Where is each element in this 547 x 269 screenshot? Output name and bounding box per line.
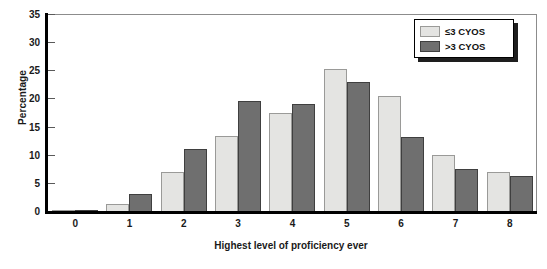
x-tick-label: 6 xyxy=(374,218,428,229)
bar-group xyxy=(211,14,265,211)
x-tick-label: 4 xyxy=(265,218,319,229)
bar xyxy=(324,69,347,211)
x-tick-label: 2 xyxy=(157,218,211,229)
bar xyxy=(129,194,152,211)
legend-swatch-dark xyxy=(420,41,440,52)
legend-box: ≤3 CYOS >3 CYOS xyxy=(414,19,514,58)
bar xyxy=(184,149,207,211)
x-axis-title: Highest level of proficiency ever xyxy=(45,240,537,251)
x-tick-label: 3 xyxy=(211,218,265,229)
bar xyxy=(487,172,510,211)
bar xyxy=(161,172,184,211)
y-tick-label: 20 xyxy=(0,93,40,104)
bar xyxy=(238,101,261,211)
legend-label-0: ≤3 CYOS xyxy=(445,26,485,37)
y-tick-label: 30 xyxy=(0,37,40,48)
y-tick-label: 35 xyxy=(0,9,40,20)
legend-swatch-light xyxy=(420,26,440,37)
x-tick-label: 7 xyxy=(428,218,482,229)
x-tick-label: 5 xyxy=(320,218,374,229)
legend-label-1: >3 CYOS xyxy=(445,41,485,52)
y-tick-label: 5 xyxy=(0,177,40,188)
bar xyxy=(52,210,75,211)
y-tick-label: 25 xyxy=(0,65,40,76)
y-tick-label: 10 xyxy=(0,149,40,160)
x-tick-label: 0 xyxy=(48,218,102,229)
legend: ≤3 CYOS >3 CYOS xyxy=(414,19,514,58)
bar-group xyxy=(265,14,319,211)
bar xyxy=(378,96,401,211)
bar-chart-figure: Percentage 05101520253035 012345678 High… xyxy=(0,0,547,269)
bar xyxy=(75,210,98,211)
legend-item-1: >3 CYOS xyxy=(420,39,508,53)
bar xyxy=(510,176,533,211)
bar xyxy=(269,113,292,211)
bar xyxy=(455,169,478,211)
x-tick-label: 1 xyxy=(102,218,156,229)
bar xyxy=(432,155,455,211)
bar xyxy=(215,136,238,211)
y-tick-label: 15 xyxy=(0,121,40,132)
bar-group xyxy=(102,14,156,211)
legend-item-0: ≤3 CYOS xyxy=(420,24,508,38)
bar xyxy=(347,82,370,211)
bar-group xyxy=(48,14,102,211)
bar xyxy=(106,204,129,211)
bar xyxy=(401,137,424,211)
bar-group xyxy=(320,14,374,211)
bar xyxy=(292,104,315,211)
x-axis-tick-labels: 012345678 xyxy=(48,218,537,229)
x-axis-line xyxy=(45,211,537,214)
x-tick-label: 8 xyxy=(483,218,537,229)
bar-group xyxy=(157,14,211,211)
y-tick-label: 0 xyxy=(0,206,40,217)
